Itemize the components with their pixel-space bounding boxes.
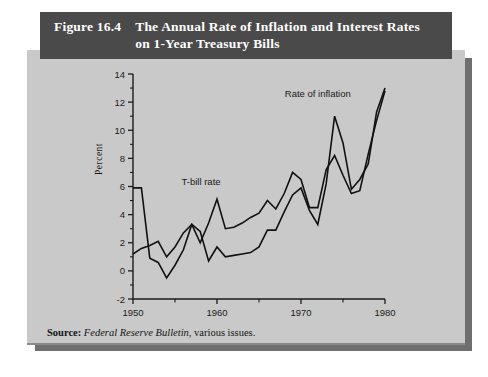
y-tick-label: 10 bbox=[114, 125, 125, 136]
x-tick-label: 1950 bbox=[122, 307, 143, 318]
series-line bbox=[133, 91, 385, 257]
y-tick-label: 8 bbox=[120, 153, 125, 164]
figure-title-line1: The Annual Rate of Inflation and Interes… bbox=[135, 19, 420, 34]
series-annotation: T-bill rate bbox=[182, 176, 221, 187]
source-label: Source: bbox=[47, 327, 81, 338]
source-publication: Federal Reserve Bulletin bbox=[84, 327, 189, 338]
y-tick-label: 14 bbox=[114, 69, 125, 80]
chart-plot-area: -2024681012141950196019701980Rate of inf… bbox=[27, 50, 465, 318]
source-detail: , various issues. bbox=[189, 327, 256, 338]
x-tick-label: 1980 bbox=[374, 307, 395, 318]
y-tick-label: -2 bbox=[117, 294, 125, 305]
inflation-tbill-line-chart: -2024681012141950196019701980Rate of inf… bbox=[27, 50, 465, 318]
y-tick-label: 0 bbox=[120, 265, 125, 276]
figure-number: Figure 16.4 bbox=[54, 18, 121, 35]
source-note: Source: Federal Reserve Bulletin, variou… bbox=[47, 327, 255, 338]
x-tick-label: 1960 bbox=[206, 307, 227, 318]
x-tick-label: 1970 bbox=[290, 307, 311, 318]
series-annotation: Rate of inflation bbox=[285, 88, 351, 99]
bottom-divider bbox=[27, 343, 465, 345]
y-axis-title: Percent bbox=[94, 143, 104, 175]
y-tick-label: 12 bbox=[114, 97, 125, 108]
figure-page: Figure 16.4 The Annual Rate of Inflation… bbox=[0, 0, 488, 377]
page-title: The Annual Rate of Inflation and Interes… bbox=[135, 18, 420, 52]
y-tick-label: 2 bbox=[120, 237, 125, 248]
y-tick-label: 4 bbox=[120, 209, 125, 220]
y-tick-label: 6 bbox=[120, 181, 125, 192]
